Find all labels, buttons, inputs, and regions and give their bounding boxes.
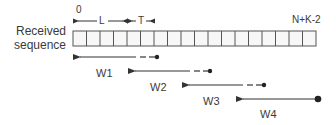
window-w1-label: W1 [96,67,113,79]
window-w4-arrow [243,96,321,103]
window-w1-arrow [80,55,159,59]
window-w3-arrow [189,83,266,87]
end-index-label: N+K-2 [292,14,321,26]
window-w3-label: W3 [203,95,220,107]
window-w4-label: W4 [260,108,277,120]
segment-T-label: T [138,15,144,27]
window-w2-arrow [135,69,212,73]
sequence-label-line1: Received [16,25,66,37]
window-w2-label: W2 [150,81,167,93]
received-sequence-cells [73,31,316,46]
start-index-label: 0 [76,4,82,16]
segment-L-label: L [99,15,105,27]
sequence-label-line2: sequence [14,39,66,51]
sliding-window-diagram [0,0,336,125]
